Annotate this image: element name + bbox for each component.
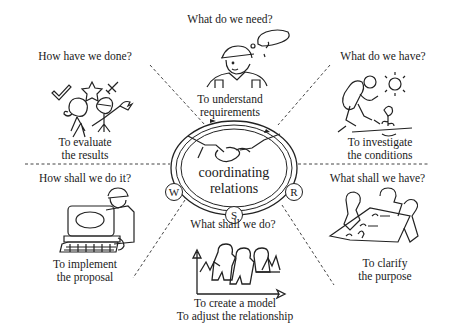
top-right-question: What do we have? (328, 50, 438, 63)
center-label-line2: relations (184, 181, 284, 197)
bottom-question: What shall we do? (178, 218, 288, 231)
bottom-caption-line2: To adjust the relationship (160, 310, 310, 323)
bottom-caption-line1: To create a model (160, 297, 310, 310)
meeting-table-icon (330, 188, 418, 242)
handshake-icon (188, 134, 280, 162)
bottom-right-caption-line1: To clarify (335, 257, 435, 270)
top-right-caption-line2: the conditions (325, 149, 435, 162)
divider-lower-right (282, 205, 334, 285)
top-left-caption-line2: the results (35, 149, 135, 162)
bottom-left-caption: To implement the proposal (35, 258, 135, 284)
top-right-caption: To investigate the conditions (325, 136, 435, 162)
top-left-caption-line1: To evaluate (35, 136, 135, 149)
divider-lower-left (133, 200, 185, 278)
celebrating-people-icon (52, 82, 132, 137)
badge-w: W (165, 183, 183, 201)
bottom-caption: To create a model To adjust the relation… (160, 297, 310, 323)
model-chart-icon (193, 244, 285, 298)
top-left-caption: To evaluate the results (35, 136, 135, 162)
top-question: What do we need? (175, 13, 285, 26)
thinking-worker-icon (207, 30, 289, 88)
bottom-right-question: What shall we have? (315, 172, 440, 185)
top-caption-line2: requirements (175, 106, 285, 119)
bottom-left-caption-line2: the proposal (35, 271, 135, 284)
computer-user-icon (60, 188, 134, 252)
top-caption: To understand requirements (175, 93, 285, 119)
badge-r: R (285, 183, 303, 201)
bottom-left-question: How shall we do it? (25, 172, 145, 185)
top-right-caption-line1: To investigate (325, 136, 435, 149)
hiker-icon (338, 72, 412, 136)
center-label-line1: coordinating (184, 165, 284, 181)
divider-upper-right (278, 65, 330, 125)
top-left-question: How have we done? (25, 50, 145, 63)
center-label: coordinating relations (184, 165, 284, 197)
bottom-right-caption-line2: the purpose (335, 270, 435, 283)
bottom-left-caption-line1: To implement (35, 258, 135, 271)
bottom-right-caption: To clarify the purpose (335, 257, 435, 283)
top-caption-line1: To understand (175, 93, 285, 106)
